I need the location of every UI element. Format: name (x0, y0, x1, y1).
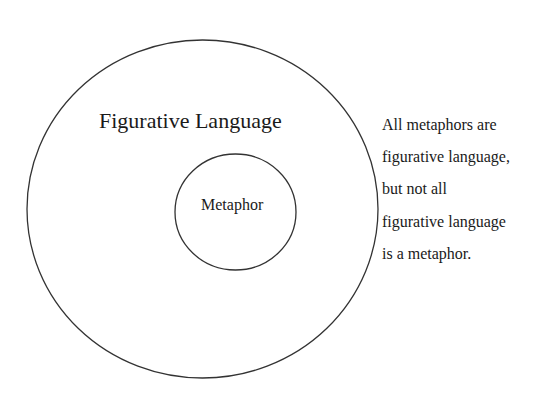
annotation-line: but not all (382, 173, 510, 205)
annotation-line: figurative language, (382, 141, 510, 173)
outer-set-label: Figurative Language (99, 108, 282, 134)
annotation-text: All metaphors are figurative language, b… (382, 109, 510, 270)
annotation-line: figurative language (382, 206, 510, 238)
inner-set-label: Metaphor (201, 195, 263, 215)
annotation-line: is a metaphor. (382, 238, 510, 270)
annotation-line: All metaphors are (382, 109, 510, 141)
